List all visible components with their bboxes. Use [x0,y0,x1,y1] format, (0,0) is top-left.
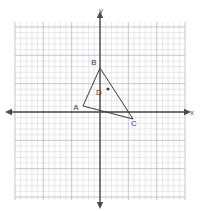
y-axis-label: y [99,6,103,15]
point-marker-d [107,88,110,91]
point-label-c: C [131,119,137,128]
x-axis-label: x [190,108,194,117]
coordinate-plane-figure: x y ABCD [0,0,203,211]
point-label-b: B [91,58,96,67]
graph-canvas: x y ABCD [0,0,203,211]
point-label-a: A [73,103,79,112]
point-label-d: D [96,88,102,97]
y-axis-arrow-down [97,202,103,209]
x-axis-arrow-left [5,109,12,115]
